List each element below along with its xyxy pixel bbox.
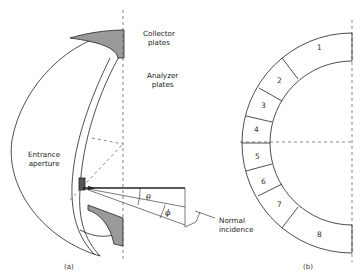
segment-4: 4 xyxy=(254,125,259,134)
segment-6: 6 xyxy=(261,177,266,186)
collector-segments xyxy=(242,33,352,253)
panel-b-caption: (b) xyxy=(303,263,313,271)
panel-a-caption: (a) xyxy=(64,263,74,271)
diagram-canvas xyxy=(0,0,360,279)
spherical-analyzer-drawing xyxy=(11,30,124,256)
segment-3: 3 xyxy=(261,101,266,110)
segment-7: 7 xyxy=(277,200,282,209)
theta-angle-label: θ xyxy=(146,193,151,202)
analyzer-plates-label: Analyzer plates xyxy=(147,72,178,89)
segment-2: 2 xyxy=(277,76,282,85)
segment-8: 8 xyxy=(317,230,322,239)
entrance-aperture-label: Entrance aperture xyxy=(28,151,60,168)
normal-incidence-label: Normal incidence xyxy=(219,217,253,234)
phi-angle-label: ϕ xyxy=(165,208,170,217)
collector-plates-label: Collector plates xyxy=(143,30,175,47)
segment-1: 1 xyxy=(317,43,322,52)
segment-5: 5 xyxy=(255,152,260,161)
